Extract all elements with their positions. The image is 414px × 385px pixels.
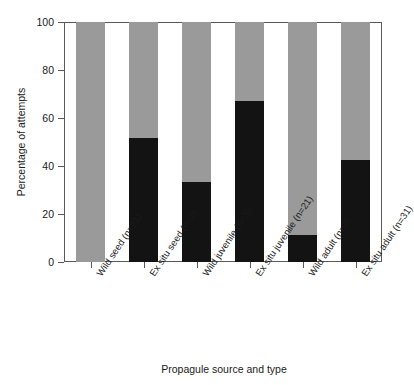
bars-layer [64, 22, 382, 262]
bar-segment-upper [182, 22, 211, 182]
x-axis-tick [303, 262, 304, 268]
y-axis-tick-label: 80 [14, 65, 58, 75]
bar-segment-lower [288, 235, 317, 262]
y-axis-tick-label: 0 [14, 257, 58, 267]
y-axis-title: Percentage of attempts [14, 22, 28, 262]
bar-segment-lower [129, 138, 158, 262]
bar-segment-upper [129, 22, 158, 138]
y-axis-tick-label: 100 [14, 17, 58, 27]
bar-stack [76, 22, 105, 262]
x-axis-tick [250, 262, 251, 268]
y-axis-tick-label: 20 [14, 209, 58, 219]
x-axis-title: Propagule source and type [0, 363, 408, 375]
bar-segment-upper [76, 22, 105, 262]
x-axis-tick [197, 262, 198, 268]
bar-segment-lower [235, 101, 264, 262]
bar-segment-upper [235, 22, 264, 101]
y-axis-tick [58, 262, 64, 263]
y-axis-tick-label: 40 [14, 161, 58, 171]
x-axis-tick [356, 262, 357, 268]
bar-segment-lower [341, 160, 370, 262]
bar-segment-upper [341, 22, 370, 160]
x-axis-tick [91, 262, 92, 268]
x-axis-tick [144, 262, 145, 268]
y-axis-tick-label: 60 [14, 113, 58, 123]
